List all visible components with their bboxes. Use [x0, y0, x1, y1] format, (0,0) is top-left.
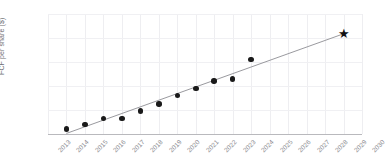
data-point-2021 [193, 86, 199, 92]
data-point-2017 [119, 116, 125, 122]
data-point-2023 [230, 76, 236, 82]
gridline-2030 [362, 14, 363, 134]
data-point-2014 [64, 126, 70, 132]
plot-area: ★ [48, 14, 362, 134]
trend-line [48, 14, 362, 134]
data-point-2015 [82, 122, 88, 128]
star-marker-2029: ★ [338, 28, 350, 40]
x-axis-line [48, 134, 362, 135]
data-point-2018 [138, 108, 144, 114]
data-point-2019 [156, 101, 162, 107]
data-point-2022 [211, 78, 217, 84]
